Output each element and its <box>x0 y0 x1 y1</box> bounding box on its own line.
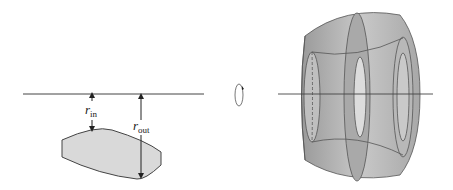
r-in-label: rin <box>85 102 98 119</box>
washer-solid <box>302 13 421 181</box>
rotation-arrow-icon <box>235 84 244 106</box>
r-out-label: rout <box>133 118 150 135</box>
region-shape <box>62 129 161 179</box>
diagram-canvas: rin rout <box>0 0 453 190</box>
